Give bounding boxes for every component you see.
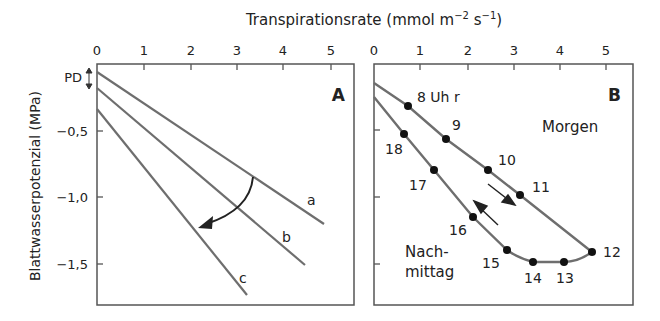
afternoon-label-line1: Nach- — [405, 243, 449, 261]
tick-label: 0 — [93, 43, 101, 58]
tick-label: 5 — [327, 43, 335, 58]
point-10 — [484, 166, 492, 174]
panel-b-y-ticks — [374, 130, 380, 264]
line-label-c: c — [239, 270, 247, 286]
point-17 — [430, 166, 438, 174]
tick-label: −0,5 — [56, 124, 88, 139]
label-16: 16 — [449, 222, 467, 238]
panel-a-lines — [97, 72, 324, 295]
line-label-b: b — [282, 229, 291, 245]
line-c — [97, 109, 247, 295]
point-18 — [400, 130, 408, 138]
label-18: 18 — [385, 141, 403, 157]
point-16 — [469, 213, 477, 221]
tick-label: 3 — [510, 43, 518, 58]
figure: Transpirationsrate (mmol m−2 s−1) Blattw… — [0, 0, 660, 321]
panel-a-x-ticks — [144, 64, 331, 70]
tick-label: 2 — [464, 43, 472, 58]
panel-b-x-ticks — [420, 64, 606, 70]
label-17: 17 — [409, 177, 427, 193]
label-8: 8 Uh r — [417, 89, 460, 105]
tick-label: 5 — [602, 43, 610, 58]
shift-arrowhead-icon — [198, 216, 213, 229]
tick-label: 3 — [233, 43, 241, 58]
tick-label: 1 — [416, 43, 424, 58]
label-10: 10 — [498, 152, 516, 168]
panel-b-label: B — [608, 85, 621, 105]
tick-label: 1 — [140, 43, 148, 58]
point-9 — [442, 135, 450, 143]
line-label-a: a — [307, 192, 316, 208]
label-14: 14 — [524, 270, 542, 286]
label-11: 11 — [532, 179, 550, 195]
x-axis-title: Transpirationsrate (mmol m−2 s−1) — [245, 10, 502, 29]
label-13: 13 — [556, 270, 574, 286]
point-14 — [529, 258, 537, 266]
point-12 — [588, 248, 596, 256]
panel-a-line-labels: a b c — [239, 192, 316, 286]
panel-b-x-tick-labels: 0 1 2 3 4 5 — [370, 43, 610, 58]
tick-label: 2 — [187, 43, 195, 58]
tick-label: 4 — [556, 43, 564, 58]
label-9: 9 — [452, 117, 461, 133]
panel-a-y-tick-labels: −0,5 −1,0 −1,5 — [56, 124, 88, 272]
panel-a: 0 1 2 3 4 5 −0,5 −1,0 −1,5 PD — [56, 43, 354, 305]
label-12: 12 — [603, 244, 621, 260]
morning-label: Morgen — [542, 118, 598, 136]
point-8 — [404, 102, 412, 110]
point-11 — [516, 191, 524, 199]
tick-label: −1,0 — [56, 190, 88, 205]
tick-label: 4 — [279, 43, 287, 58]
panel-a-label: A — [332, 85, 346, 105]
panel-a-x-tick-labels: 0 1 2 3 4 5 — [93, 43, 335, 58]
label-15: 15 — [482, 255, 500, 271]
panel-b-direction-arrows — [474, 184, 515, 225]
line-a — [97, 72, 324, 224]
tick-label: 0 — [370, 43, 378, 58]
pd-label: PD — [64, 70, 82, 85]
tick-label: −1,5 — [56, 257, 88, 272]
point-13 — [560, 258, 568, 266]
afternoon-label-line2: mittag — [405, 263, 454, 281]
afternoon-arrowhead-icon — [474, 201, 487, 213]
y-axis-title: Blattwasserpotenzial (MPa) — [27, 91, 43, 281]
panel-b: 0 1 2 3 4 5 — [370, 43, 633, 305]
panel-a-y-ticks — [97, 131, 103, 264]
pd-double-arrow-icon — [86, 68, 92, 89]
point-15 — [503, 246, 511, 254]
